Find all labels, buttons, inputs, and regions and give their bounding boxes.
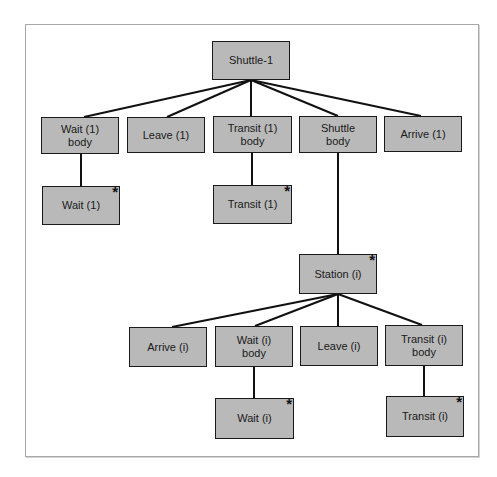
node-label: Leave (1): [143, 129, 189, 142]
edge-shuttle1-to-shuttlebody: [251, 80, 338, 116]
node-leavei: Leave (i): [300, 326, 378, 366]
node-arrivei: Arrive (i): [129, 327, 207, 367]
node-shuttlebody: Shuttle body: [299, 116, 377, 153]
node-label: Arrive (i): [147, 341, 189, 354]
node-wait1: Wait (1)*: [42, 186, 120, 225]
node-label: Shuttle body: [321, 122, 355, 148]
edge-shuttle1-to-leave1: [167, 80, 251, 117]
asterisk-icon: *: [284, 183, 290, 198]
node-wait1body: Wait (1) body: [41, 117, 119, 154]
node-label: Transit (1) body: [228, 122, 278, 148]
node-label: Arrive (1): [400, 128, 445, 141]
node-stationi: Station (i)*: [299, 254, 377, 294]
edge-shuttle1-to-wait1body: [84, 80, 251, 117]
node-label: Leave (i): [318, 340, 361, 353]
node-label: Transit (i): [402, 410, 448, 423]
node-transitibody: Transit (i) body: [385, 325, 463, 366]
asterisk-icon: *: [369, 252, 375, 267]
asterisk-icon: *: [456, 394, 462, 409]
node-label: Shuttle-1: [229, 54, 273, 67]
node-label: Wait (i) body: [237, 334, 271, 360]
node-arrive1: Arrive (1): [384, 116, 462, 152]
edge-stationi-to-waitibody: [255, 294, 338, 326]
node-waitibody: Wait (i) body: [215, 326, 293, 367]
node-label: Wait (1) body: [61, 123, 99, 149]
asterisk-icon: *: [112, 184, 118, 199]
asterisk-icon: *: [286, 396, 292, 411]
node-label: Transit (1): [228, 198, 278, 211]
node-shuttle1: Shuttle-1: [212, 41, 290, 80]
node-leave1: Leave (1): [127, 117, 205, 153]
edge-stationi-to-transitibody: [338, 294, 422, 325]
node-transiti: Transit (i)*: [386, 396, 464, 437]
node-waiti: Wait (i)*: [215, 398, 294, 439]
node-label: Station (i): [314, 268, 361, 281]
node-label: Transit (i) body: [401, 333, 447, 359]
node-transit1body: Transit (1) body: [213, 116, 292, 153]
node-label: Wait (i): [237, 412, 271, 425]
node-transit1: Transit (1)*: [213, 185, 292, 224]
edge-shuttle1-to-arrive1: [251, 80, 421, 116]
edge-stationi-to-arrivei: [172, 294, 338, 327]
node-label: Wait (1): [62, 199, 100, 212]
